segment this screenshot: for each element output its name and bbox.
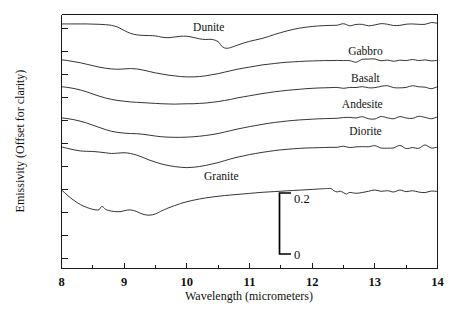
x-tick-label: 12 <box>306 275 319 289</box>
scale-top-label: 0.2 <box>294 192 310 206</box>
y-axis-ticks <box>62 29 68 259</box>
y-axis-title: Emissivity (Offset for clarity) <box>13 70 27 213</box>
x-tick-labels: 891011121314 <box>58 275 444 289</box>
curve-diorite <box>62 145 438 168</box>
scale-bottom-label: 0 <box>294 248 300 262</box>
curve-label-dunite: Dunite <box>193 21 224 33</box>
curve-label-basalt: Basalt <box>351 72 381 84</box>
x-tick-label: 10 <box>181 275 194 289</box>
x-axis-title: Wavelength (micrometers) <box>185 289 313 303</box>
x-axis-ticks <box>62 263 438 269</box>
curve-label-gabbro: Gabbro <box>348 45 383 57</box>
scale-bar-bracket <box>280 193 292 254</box>
curve-label-granite: Granite <box>204 170 238 182</box>
x-tick-label: 9 <box>121 275 127 289</box>
curve-label-andesite: Andesite <box>342 98 383 110</box>
x-tick-label: 13 <box>369 275 382 289</box>
x-tick-label: 14 <box>431 275 444 289</box>
x-tick-label: 11 <box>244 275 256 289</box>
scale-bar <box>280 193 292 254</box>
curve-label-diorite: Diorite <box>349 125 382 137</box>
emissivity-spectra-chart: DuniteGabbroBasaltAndesiteDioriteGranite… <box>0 0 450 323</box>
curve-gabbro <box>62 59 438 77</box>
chart-page: DuniteGabbroBasaltAndesiteDioriteGranite… <box>0 0 450 323</box>
x-tick-label: 8 <box>58 275 64 289</box>
curve-granite <box>62 188 438 215</box>
